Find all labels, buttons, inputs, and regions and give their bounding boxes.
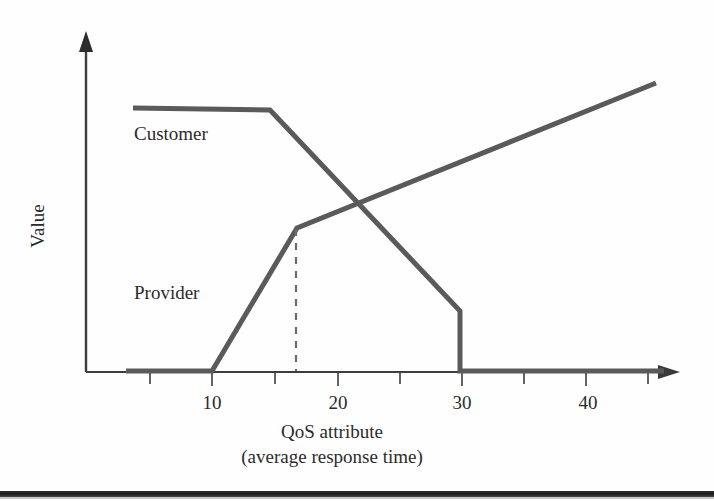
y-axis-arrow-icon <box>79 31 93 52</box>
series-line-customer <box>133 108 664 371</box>
x-axis-ticks <box>150 372 648 386</box>
y-axis-title: Value <box>27 204 48 247</box>
x-axis-title-line1: QoS attribute <box>281 421 383 442</box>
x-axis-tick-labels: 10 20 30 40 <box>203 392 598 413</box>
qos-utility-chart: 10 20 30 40 Customer Provider Value QoS … <box>0 0 714 501</box>
x-tick-label-20: 20 <box>329 392 348 413</box>
x-axis-title-line2: (average response time) <box>241 446 422 468</box>
figure-page: 10 20 30 40 Customer Provider Value QoS … <box>0 0 714 501</box>
x-tick-label-40: 40 <box>579 392 598 413</box>
series-label-customer: Customer <box>134 123 209 144</box>
axes-group <box>79 31 680 379</box>
page-bottom-scan-bar-soft <box>0 497 714 499</box>
series-label-provider: Provider <box>134 282 200 303</box>
x-tick-label-30: 30 <box>453 392 472 413</box>
x-tick-label-10: 10 <box>203 392 222 413</box>
